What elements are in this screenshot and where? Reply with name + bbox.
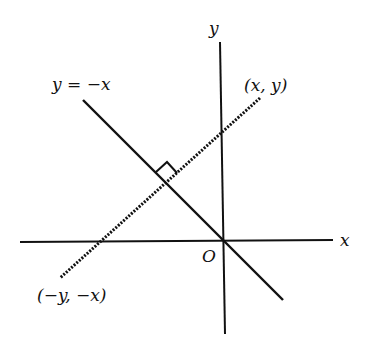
reflection-diagram: y x O y = −x (x, y) (−y, −x)	[0, 0, 367, 350]
line-label: y = −x	[51, 74, 111, 94]
origin-label: O	[202, 246, 216, 266]
line-y-equals-neg-x	[83, 100, 283, 300]
x-axis-label: x	[340, 230, 350, 250]
dashed-segment	[60, 98, 260, 278]
y-axis-label: y	[208, 18, 219, 38]
y-axis	[220, 42, 225, 334]
point-label: (x, y)	[244, 75, 287, 95]
x-axis	[20, 240, 333, 242]
right-angle-marker	[156, 162, 177, 173]
reflected-point-label: (−y, −x)	[37, 285, 107, 305]
